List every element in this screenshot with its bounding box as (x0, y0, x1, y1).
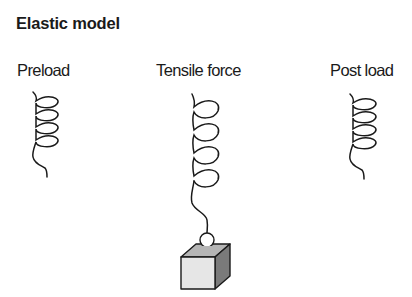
postload-spring-icon (350, 94, 376, 179)
weight-cube-icon (181, 233, 230, 289)
elastic-model-illustration (0, 0, 412, 297)
tensile-spring-icon (191, 94, 218, 233)
preload-spring-icon (33, 92, 58, 177)
hook-ring-icon (200, 233, 214, 247)
